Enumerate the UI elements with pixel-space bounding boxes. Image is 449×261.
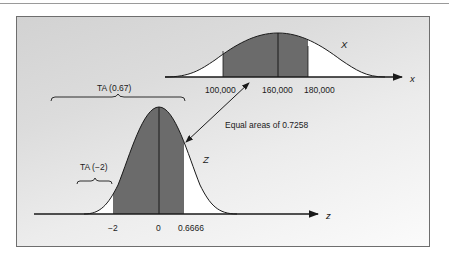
brace-label-ta-067: TA (0.67) — [97, 84, 131, 93]
brace-label-ta-minus2: TA (−2) — [80, 163, 107, 172]
brace-ta-minus2 — [77, 178, 112, 184]
tick-100000: 100,000 — [205, 86, 236, 95]
lower-axis-label: z — [326, 211, 331, 221]
lower-curve-z — [34, 100, 318, 215]
upper-curve-x — [160, 25, 402, 78]
tick-minus2: −2 — [108, 224, 118, 233]
tick-180000: 180,000 — [304, 86, 335, 95]
upper-axis-label: x — [410, 74, 415, 84]
tick-06666: 0.6666 — [178, 224, 204, 233]
equal-areas-label: Equal areas of 0.7258 — [225, 121, 308, 130]
tick-0: 0 — [156, 224, 161, 233]
upper-variable-label: X — [341, 40, 347, 50]
lower-variable-label: Z — [203, 155, 209, 165]
tick-160000: 160,000 — [262, 86, 293, 95]
normal-distribution-diagram — [0, 0, 449, 261]
brace-ta-067 — [51, 94, 185, 101]
